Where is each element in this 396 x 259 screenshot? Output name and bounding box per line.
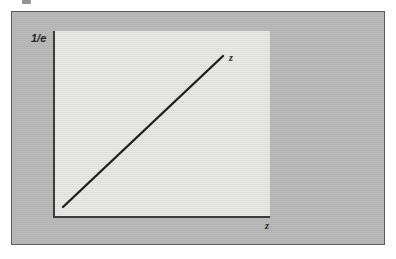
y-axis-label: 1/e (31, 33, 46, 44)
scan-artifact-smudge (22, 0, 31, 4)
data-line (63, 56, 223, 207)
figure-panel: 1/e z z (11, 11, 385, 245)
curve-label: z (229, 53, 233, 63)
x-axis-label: z (265, 221, 269, 231)
data-line-svg (12, 12, 386, 246)
